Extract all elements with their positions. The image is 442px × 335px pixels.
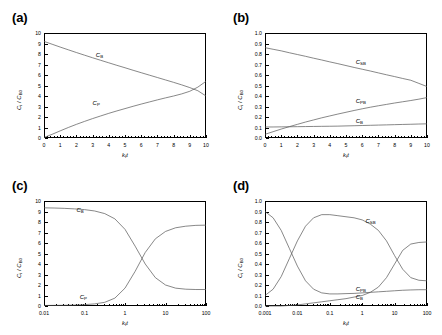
curve-c-pb	[265, 98, 427, 135]
curve-c-b	[265, 124, 427, 127]
curve-layer	[221, 0, 442, 167]
curve-annotation-c-b: CB	[356, 118, 363, 125]
curve-annotation-c-p: CP	[93, 100, 100, 107]
figure-root: (a)012345678910012345678910Ci / CB0kftCB…	[0, 0, 442, 335]
curve-annotation-c-sb: CSB	[365, 218, 375, 225]
curve-layer	[221, 168, 442, 335]
curve-c-sb	[265, 215, 427, 296]
curve-c-p	[44, 81, 206, 137]
curve-annotation-c-b: CB	[76, 207, 83, 214]
subplot-b: (b)0.00.10.20.30.40.50.60.70.80.91.00123…	[221, 0, 442, 167]
curve-layer	[0, 0, 221, 167]
curve-annotation-c-b: CB	[96, 52, 103, 59]
subplot-d: (d)0.00.10.20.30.40.50.60.70.80.91.00.00…	[221, 168, 442, 335]
curve-annotation-c-pb: CPB	[356, 286, 366, 293]
curve-layer	[0, 168, 221, 335]
curve-c-sb	[265, 48, 427, 87]
curve-annotation-c-b: CB	[356, 294, 363, 301]
curve-annotation-c-pb: CPB	[356, 98, 366, 105]
curve-c-pb	[265, 242, 427, 306]
curve-annotation-c-sb: CSB	[356, 59, 366, 66]
subplot-c: (c)0123456789100.010.1110100Ci / CB0kftC…	[0, 168, 221, 335]
curve-annotation-c-p: CP	[80, 294, 87, 301]
curve-c-b	[44, 208, 206, 290]
subplot-a: (a)012345678910012345678910Ci / CB0kftCB…	[0, 0, 221, 167]
curve-c-p	[44, 225, 206, 305]
curve-c-b	[265, 212, 427, 294]
curve-c-b	[44, 41, 206, 96]
